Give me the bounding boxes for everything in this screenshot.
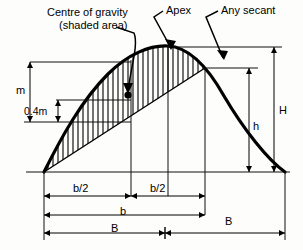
shaded-area-hatching: [48, 30, 203, 185]
label-dimension-h: h: [253, 120, 259, 132]
label-dimension-m: m: [16, 84, 25, 96]
label-apex: Apex: [166, 4, 191, 16]
leader-arrow-secant: [217, 50, 228, 60]
label-dimension-b-half-right: b/2: [150, 182, 165, 194]
label-dimension-B-right: B: [225, 215, 232, 227]
label-dimension-0point4m: 0.4m: [24, 105, 47, 117]
label-dimension-b-half-left: b/2: [73, 182, 88, 194]
label-centre-of-gravity-line2: (shaded area): [59, 19, 128, 31]
label-dimension-b: b: [120, 205, 126, 217]
label-dimension-H: H: [279, 104, 287, 116]
diagram-root: Centre of gravity (shaded area) Apex Any…: [0, 0, 303, 250]
label-any-secant: Any secant: [221, 4, 275, 16]
label-centre-of-gravity-line1: Centre of gravity: [47, 6, 128, 18]
label-dimension-B-left: B: [111, 222, 118, 234]
